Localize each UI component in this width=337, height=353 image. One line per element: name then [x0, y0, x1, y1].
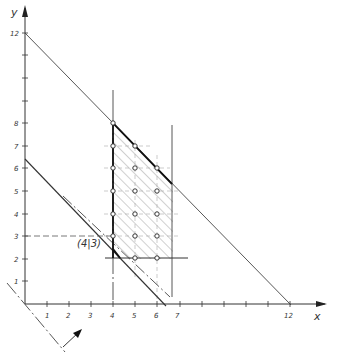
x-axis-arrow-icon — [316, 301, 327, 307]
diagram-canvas: y x 1 2 3 4 5 6 7 12 1 2 3 4 5 6 7 8 12 … — [0, 0, 337, 353]
x-tick-label: 4 — [110, 312, 114, 320]
y-tick-label: 7 — [14, 143, 19, 151]
x-tick-label: 2 — [66, 312, 71, 320]
x-tick-label: 6 — [154, 312, 159, 320]
x-axis-label: x — [313, 310, 321, 323]
line-objective-origin — [7, 283, 65, 352]
y-tick-label: 1 — [14, 278, 18, 286]
x-tick-label: 12 — [284, 312, 293, 320]
y-axis-arrow-icon — [22, 5, 28, 17]
y-tick-label: 4 — [14, 211, 18, 219]
x-tick-label: 1 — [45, 312, 49, 320]
lp-diagram: y x 1 2 3 4 5 6 7 12 1 2 3 4 5 6 7 8 12 … — [0, 0, 337, 353]
y-tick-label: 5 — [14, 188, 19, 196]
x-tick-label: 3 — [88, 312, 92, 320]
y-tick-label: 2 — [14, 256, 19, 264]
y-axis-label: y — [10, 6, 18, 19]
y-tick-label: 12 — [10, 30, 19, 38]
axes — [25, 8, 325, 304]
optimum-label: (4|3) — [77, 238, 101, 250]
y-tick-label: 6 — [14, 165, 19, 173]
y-tick-label: 8 — [14, 120, 19, 128]
y-tick-label: 3 — [14, 233, 18, 241]
x-tick-label: 5 — [132, 312, 137, 320]
x-tick-label: 7 — [175, 312, 180, 320]
